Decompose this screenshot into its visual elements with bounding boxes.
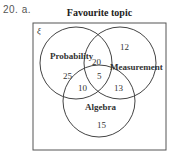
region-probability-measurement: 20 [92, 57, 102, 67]
universal-set-symbol: ξ [37, 26, 41, 36]
region-algebra-only: 15 [97, 120, 107, 130]
venn-diagram: ξ Probability Measurement Algebra 25 12 … [0, 0, 175, 153]
region-probability-only: 25 [63, 71, 73, 81]
probability-circle [40, 27, 112, 99]
region-measurement-only: 12 [120, 42, 129, 52]
probability-label: Probability [50, 51, 94, 61]
measurement-label: Measurement [110, 62, 163, 72]
region-measurement-algebra: 13 [114, 83, 124, 93]
universal-set-box [33, 23, 166, 150]
algebra-label: Algebra [85, 102, 116, 112]
region-all-three: 5 [97, 71, 102, 81]
region-probability-algebra: 10 [78, 83, 88, 93]
